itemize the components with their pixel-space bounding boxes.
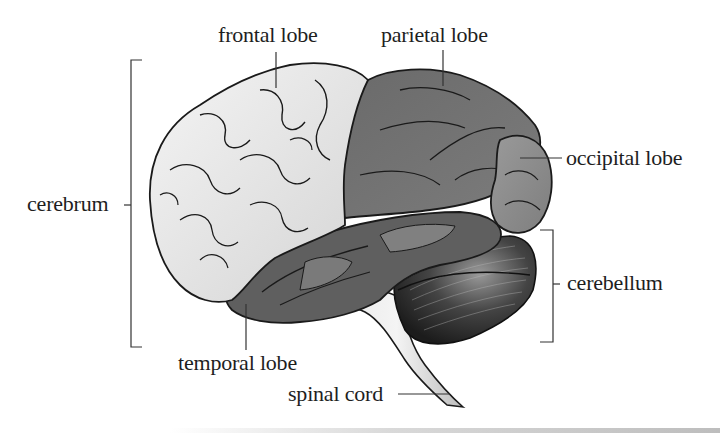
label-cerebellum: cerebellum (567, 272, 663, 294)
label-temporal-lobe: temporal lobe (178, 352, 297, 374)
label-parietal-lobe: parietal lobe (381, 24, 488, 46)
label-frontal-lobe: frontal lobe (218, 24, 318, 46)
label-occipital-lobe: occipital lobe (566, 147, 682, 169)
label-spinal-cord: spinal cord (288, 383, 383, 405)
brain-diagram: frontal lobe parietal lobe occipital lob… (0, 0, 720, 433)
label-cerebrum: cerebrum (27, 193, 108, 215)
brain-illustration (0, 0, 720, 433)
occipital-lobe-shape (491, 136, 552, 233)
bottom-edge-shadow (170, 428, 720, 433)
